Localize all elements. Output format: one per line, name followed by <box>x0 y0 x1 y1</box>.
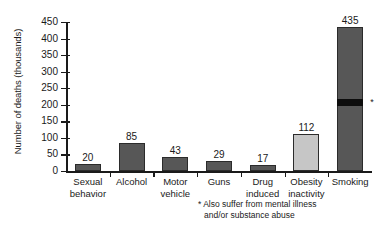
y-tick-label: 450 <box>28 17 58 27</box>
y-tick-label: 350 <box>28 50 58 60</box>
y-tick-inner-mark <box>66 72 70 73</box>
footnote-marker-asterisk: * <box>370 98 374 107</box>
footnote-line-1: * Also suffer from mental illness <box>198 199 376 210</box>
x-axis-category-label: Druginduced <box>241 176 285 199</box>
bar-value-label: 17 <box>257 154 268 164</box>
category-label-line: behavior <box>66 188 110 200</box>
bar: 17 <box>250 165 276 171</box>
category-label-line: Alcohol <box>110 176 154 188</box>
y-tick-label: 150 <box>28 116 58 126</box>
category-label-line: Sexual <box>66 176 110 188</box>
category-label-line: Guns <box>197 176 241 188</box>
bar: 29 <box>206 161 232 171</box>
bar-value-label: 435 <box>342 16 359 26</box>
x-axis-line <box>66 171 372 173</box>
category-label-line: Drug <box>241 176 285 188</box>
bar: 112 <box>293 134 319 171</box>
plot-area: 050100150200250300350400450 208543291711… <box>66 22 372 171</box>
y-tick-inner-mark <box>66 55 70 56</box>
y-axis-line <box>66 22 68 171</box>
y-tick-label: 300 <box>28 67 58 77</box>
y-axis-title: Number of deaths (thousands) <box>12 12 23 172</box>
category-label-line: Motor <box>153 176 197 188</box>
y-tick-inner-mark <box>66 138 70 139</box>
y-tick-label: 400 <box>28 34 58 44</box>
x-axis-category-label: Sexualbehavior <box>66 176 110 199</box>
x-axis-category-label: Smoking <box>328 176 372 188</box>
bar-value-label: 29 <box>213 150 224 160</box>
footnote: * Also suffer from mental illness and/or… <box>198 199 376 220</box>
y-tick-label: 0 <box>28 166 58 176</box>
y-tick-inner-mark <box>66 105 70 106</box>
y-tick-inner-mark <box>66 22 70 23</box>
y-tick-label: 100 <box>28 133 58 143</box>
category-label-line: Obesity <box>285 176 329 188</box>
y-tick-inner-mark <box>66 154 70 155</box>
bar-value-label: 43 <box>170 146 181 156</box>
y-tick-inner-mark <box>66 39 70 40</box>
y-tick-label: 200 <box>28 100 58 110</box>
y-tick-inner-mark <box>66 171 70 172</box>
bar: 43 <box>162 157 188 171</box>
x-axis-category-label: Alcohol <box>110 176 154 188</box>
bar-annotation-band <box>337 99 363 106</box>
bar-value-label: 85 <box>126 132 137 142</box>
category-label-line: inactivity <box>285 188 329 200</box>
y-tick-label: 250 <box>28 83 58 93</box>
bar-value-label: 20 <box>82 153 93 163</box>
y-tick-label: 50 <box>28 149 58 159</box>
x-axis-category-label: Motorvehicle <box>153 176 197 199</box>
y-tick-inner-mark <box>66 121 70 122</box>
y-tick-inner-mark <box>66 88 70 89</box>
bar: 20 <box>75 164 101 171</box>
x-axis-category-label: Guns <box>197 176 241 188</box>
bar: 435* <box>337 27 363 171</box>
category-label-line: Smoking <box>328 176 372 188</box>
bar: 85 <box>119 143 145 171</box>
bar-value-label: 112 <box>298 123 314 133</box>
footnote-line-2: and/or substance abuse <box>198 210 376 221</box>
x-axis-category-label: Obesityinactivity <box>285 176 329 199</box>
category-label-line: vehicle <box>153 188 197 200</box>
category-label-line: induced <box>241 188 285 200</box>
bar-chart-figure: Number of deaths (thousands) 05010015020… <box>0 0 379 227</box>
